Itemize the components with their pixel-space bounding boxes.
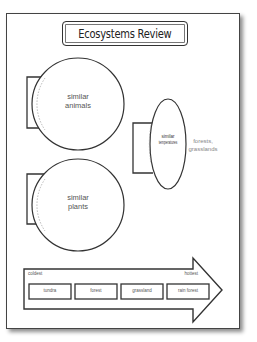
- label-line: similar: [48, 92, 108, 101]
- label-line: temperatures: [155, 140, 180, 146]
- label-line: forests,: [183, 138, 223, 146]
- ellipse-label: similar temperatures: [150, 134, 186, 145]
- label-line: grasslands: [183, 146, 223, 154]
- coldest-label: coldest: [28, 271, 42, 277]
- box-label-grassland: grassland: [121, 288, 163, 294]
- box-label-forest: forest: [75, 288, 117, 294]
- circle-label-plants: similar plants: [48, 193, 108, 212]
- circle-label-animals: similar animals: [48, 92, 108, 111]
- label-line: similar: [48, 193, 108, 202]
- hottest-label: hottest: [172, 271, 198, 277]
- box-label-rainforest: rain forest: [167, 288, 209, 294]
- label-line: animals: [48, 101, 108, 110]
- label-line: plants: [48, 202, 108, 211]
- side-note: forests, grasslands: [183, 138, 223, 153]
- box-label-tundra: tundra: [29, 288, 71, 294]
